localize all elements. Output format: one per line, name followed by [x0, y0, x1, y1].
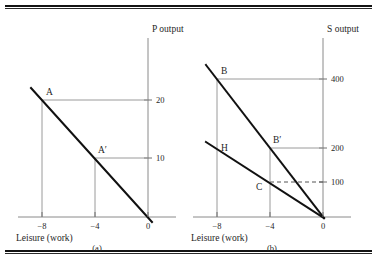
panel-b-y-axis-title: S output: [327, 24, 359, 34]
panel-b-xtick-label-neg8: −8: [212, 221, 221, 231]
panel-a-y-axis-title: P output: [152, 24, 184, 34]
panel-a-point-label-A-prime: A′: [98, 145, 107, 155]
panel-b-budget-line-steep: [206, 65, 324, 218]
panel-b-point-label-B: B: [221, 66, 227, 76]
chart-panel-b: S output 400 200 100 −8 −4: [188, 12, 377, 252]
panel-b-point-label-H: H: [221, 143, 228, 153]
panel-b-x-axis-title: Leisure (work): [191, 233, 248, 244]
figure-root: P output 20 10 −8 −4 0 A A′ Leisu: [0, 0, 377, 264]
top-hairline-rule: [5, 8, 372, 9]
panel-b-xtick-label-0: 0: [321, 221, 325, 231]
panel-b-ytick-label-200: 200: [331, 143, 344, 153]
top-rule: [5, 5, 372, 7]
panel-a-ytick-label-10: 10: [156, 153, 165, 163]
panel-b-point-label-C: C: [256, 182, 262, 192]
bottom-hairline-rule: [5, 253, 372, 254]
panel-a-caption: (a): [92, 243, 102, 252]
panel-a-ytick-label-20: 20: [156, 95, 165, 105]
panel-b-ytick-label-400: 400: [331, 74, 344, 84]
panel-b-xtick-label-neg4: −4: [265, 221, 275, 231]
panel-b-ytick-label-100: 100: [331, 177, 344, 187]
panel-b-caption: (b): [267, 243, 277, 252]
panel-a-x-ticks: −8 −4 0: [37, 212, 150, 231]
panel-b-budget-line-flat: [206, 142, 324, 218]
panel-a-xtick-label-0: 0: [146, 221, 150, 231]
chart-panel-a: P output 20 10 −8 −4 0 A A′ Leisu: [0, 12, 188, 252]
panel-b-point-label-B-prime: B′: [273, 135, 281, 145]
panel-b-x-ticks: −8 −4 0: [212, 212, 325, 231]
panel-a-budget-line: [31, 88, 152, 222]
panel-a-xtick-label-neg4: −4: [90, 221, 100, 231]
panel-a-point-label-A: A: [46, 87, 53, 97]
panel-a-y-ticks: 20 10: [144, 95, 165, 163]
panel-a-xtick-label-neg8: −8: [37, 221, 46, 231]
panel-a-x-axis-title: Leisure (work): [16, 233, 73, 244]
